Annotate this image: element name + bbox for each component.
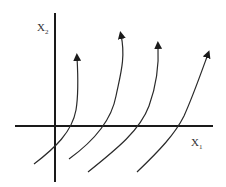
y-axis-label: X2 <box>37 21 49 36</box>
trajectory-4 <box>137 54 208 172</box>
phase-diagram: X2 X1 <box>0 0 226 187</box>
trajectory-3 <box>88 45 158 172</box>
x-axis-label: X1 <box>191 136 203 151</box>
